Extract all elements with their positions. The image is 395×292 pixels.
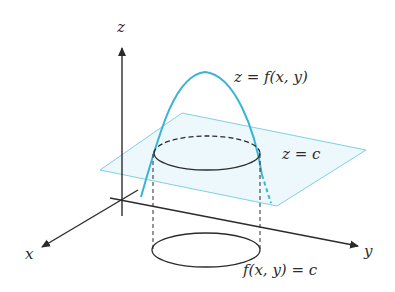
plane-label: z = c (281, 145, 321, 163)
y-axis-label: y (363, 242, 373, 260)
x-axis-label: x (25, 245, 34, 263)
plane-z-equals-c (100, 113, 366, 206)
surface-label: z = f(x, y) (233, 68, 308, 86)
level-curve-label: f(x, y) = c (242, 261, 318, 279)
y-axis (110, 198, 358, 246)
x-axis (42, 190, 138, 247)
z-axis-label: z (116, 18, 125, 36)
level-curve-diagram: z x y z = f(x, y) z = c f(x, y) = c (0, 0, 395, 292)
